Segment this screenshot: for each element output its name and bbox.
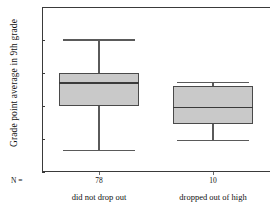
box-iqr: [173, 86, 253, 124]
whisker-cap-upper: [177, 82, 249, 83]
box-plot-figure: Grade point average in 9th grade 0.01.02…: [0, 0, 273, 212]
y-tick: [42, 40, 45, 41]
category-label: did not drop out: [39, 192, 159, 202]
y-tick: [42, 139, 45, 140]
whisker-cap-upper: [63, 39, 135, 40]
box-iqr: [59, 73, 139, 106]
x-tick: [99, 172, 100, 175]
y-tick: [42, 7, 45, 8]
y-tick: [42, 73, 45, 74]
y-tick: [42, 106, 45, 107]
y-axis-title: Grade point average in 9th grade: [9, 3, 19, 163]
median-line: [59, 82, 139, 84]
whisker-cap-lower: [63, 150, 135, 151]
whisker-lower: [212, 124, 213, 141]
n-count-label: 78: [69, 176, 129, 185]
n-prefix-label: N =: [11, 176, 23, 185]
median-line: [173, 107, 253, 109]
n-count-label: 10: [183, 176, 243, 185]
category-label: dropped out of high: [153, 192, 273, 202]
y-tick: [42, 172, 45, 173]
whisker-cap-lower: [177, 140, 249, 141]
whisker-upper: [98, 40, 99, 73]
x-tick: [213, 172, 214, 175]
whisker-lower: [98, 106, 99, 151]
